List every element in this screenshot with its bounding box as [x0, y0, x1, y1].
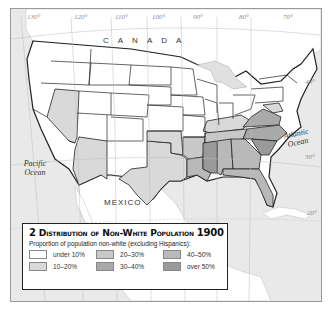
- longitude-80-label: 80°: [239, 13, 249, 21]
- legend-subtitle: Proportion of population non-white (excl…: [29, 240, 221, 247]
- legend-swatch: [29, 262, 47, 271]
- longitude-110-label: 110°: [115, 13, 128, 21]
- longitude-100-label: 100°: [152, 13, 165, 21]
- map-title: 2 Distribution of Non-White Population 1…: [29, 227, 221, 238]
- legend: 2 Distribution of Non-White Population 1…: [22, 223, 228, 290]
- legend-item-under-10: under 10%: [29, 250, 96, 259]
- legend-swatch: [163, 250, 181, 259]
- longitude-130-label: 130°: [27, 13, 40, 21]
- legend-swatch: [163, 262, 181, 271]
- longitude-90-label: 90°: [193, 13, 203, 21]
- cuba: [263, 207, 311, 219]
- legend-swatch: [96, 250, 114, 259]
- legend-item-over-50: over 50%: [163, 262, 223, 271]
- latitude-30-label: 30°: [305, 153, 315, 161]
- map-title-year: 1900: [197, 227, 224, 238]
- map-title-text: Distribution of Non-White Population: [39, 227, 194, 238]
- legend-swatch: [29, 250, 47, 259]
- longitude-120-label: 120°: [74, 13, 87, 21]
- pacific-ocean-label: Pacific Ocean: [15, 159, 55, 177]
- legend-item-40-50: 40–50%: [163, 250, 223, 259]
- legend-item-20-30: 20–30%: [96, 250, 163, 259]
- map-frame: 130° 120° 110° 100° 90° 80° 70° 40° 30° …: [10, 8, 322, 302]
- mexico-label: MEXICO: [104, 198, 142, 207]
- longitude-70-label: 70°: [283, 13, 293, 21]
- legend-swatch: [96, 262, 114, 271]
- state-mississippi: [203, 141, 217, 173]
- canada-label: CANADA: [103, 36, 190, 45]
- legend-items: under 10% 20–30% 40–50% 10–20% 30–40% ov…: [29, 250, 221, 271]
- legend-item-10-20: 10–20%: [29, 262, 96, 271]
- latitude-20-label: 20°: [307, 209, 317, 217]
- latitude-40-label: 40°: [305, 78, 315, 86]
- legend-item-30-40: 30–40%: [96, 262, 163, 271]
- state-arkansas: [183, 137, 205, 159]
